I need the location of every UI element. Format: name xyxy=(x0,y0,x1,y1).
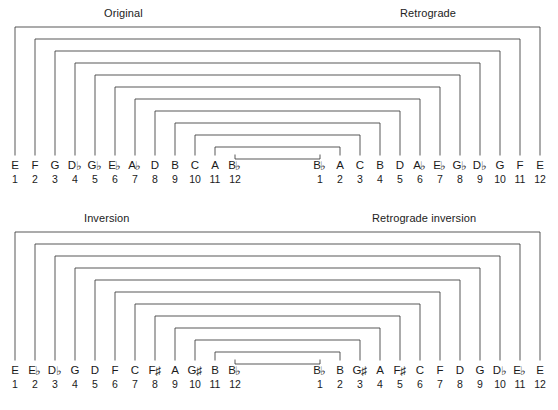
row-connector-bracket xyxy=(55,256,500,360)
note-column: G10 xyxy=(489,158,511,186)
note-name: E♭ xyxy=(429,158,451,172)
flat-accidental-icon: ♭ xyxy=(520,364,526,378)
note-name: B♭ xyxy=(309,158,331,172)
flat-accidental-icon: ♭ xyxy=(501,364,507,378)
note-column: D♭9 xyxy=(469,158,491,186)
note-column: E12 xyxy=(529,158,551,186)
row-connector-bracket xyxy=(215,147,340,155)
note-order-number: 3 xyxy=(349,377,371,391)
row-connector-bracket xyxy=(15,27,540,155)
note-name: G xyxy=(469,363,491,377)
note-labels-retrograde-inversion: B♭1B2G♯3A4F♯5C6F7D8G9D♭10E♭11E12 xyxy=(0,363,558,403)
note-column: G♯3 xyxy=(349,363,371,391)
sharp-accidental-icon: ♯ xyxy=(400,364,406,378)
note-name: G♭ xyxy=(449,158,471,172)
note-name: B♭ xyxy=(309,363,331,377)
note-order-number: 6 xyxy=(409,172,431,186)
note-column: G9 xyxy=(469,363,491,391)
row-connector-bracket xyxy=(155,316,400,360)
note-column: B♭1 xyxy=(309,158,331,186)
note-column: A2 xyxy=(329,158,351,186)
note-name: F xyxy=(509,158,531,172)
row-connector-bracket xyxy=(195,135,360,155)
note-name: D xyxy=(389,158,411,172)
row-connector-bracket xyxy=(15,232,540,360)
note-column: B4 xyxy=(369,158,391,186)
note-column: E12 xyxy=(529,363,551,391)
note-order-number: 1 xyxy=(309,377,331,391)
sharp-accidental-icon: ♯ xyxy=(361,364,367,378)
bracket-group-original xyxy=(0,0,558,160)
row-connector-bracket xyxy=(115,87,440,155)
note-order-number: 12 xyxy=(529,172,551,186)
note-column: A4 xyxy=(369,363,391,391)
row-connector-bracket xyxy=(155,111,400,155)
note-order-number: 2 xyxy=(329,172,351,186)
note-order-number: 7 xyxy=(429,377,451,391)
flat-accidental-icon: ♭ xyxy=(320,159,326,173)
note-column: D8 xyxy=(449,363,471,391)
flat-accidental-icon: ♭ xyxy=(420,159,426,173)
note-name: B xyxy=(329,363,351,377)
note-order-number: 10 xyxy=(489,172,511,186)
row-connector-bracket xyxy=(35,244,520,360)
flat-accidental-icon: ♭ xyxy=(461,159,467,173)
note-column: F7 xyxy=(429,363,451,391)
note-name: E xyxy=(529,158,551,172)
note-order-number: 11 xyxy=(509,377,531,391)
note-name: G xyxy=(489,158,511,172)
flat-accidental-icon: ♭ xyxy=(320,364,326,378)
note-column: D5 xyxy=(389,158,411,186)
row-connector-bracket xyxy=(115,292,440,360)
row-connector-bracket xyxy=(75,268,480,360)
note-column: B♭1 xyxy=(309,363,331,391)
note-column: D♭10 xyxy=(489,363,511,391)
flat-accidental-icon: ♭ xyxy=(481,159,487,173)
note-name: F xyxy=(429,363,451,377)
note-name: E xyxy=(529,363,551,377)
note-name: D♭ xyxy=(489,363,511,377)
note-column: A♭6 xyxy=(409,158,431,186)
note-name: D♭ xyxy=(469,158,491,172)
bracket-group-inversion xyxy=(0,205,558,365)
note-name: A xyxy=(329,158,351,172)
note-name: C xyxy=(409,363,431,377)
note-order-number: 7 xyxy=(429,172,451,186)
row-connector-bracket xyxy=(55,51,500,155)
note-column: C3 xyxy=(349,158,371,186)
note-order-number: 4 xyxy=(369,172,391,186)
row-connector-bracket xyxy=(75,63,480,155)
row-connector-bracket xyxy=(35,39,520,155)
note-order-number: 10 xyxy=(489,377,511,391)
note-order-number: 6 xyxy=(409,377,431,391)
panel-inversion: Inversion Retrograde inversion E1E♭2D♭3G… xyxy=(0,205,558,410)
note-order-number: 8 xyxy=(449,377,471,391)
note-name: E♭ xyxy=(509,363,531,377)
note-order-number: 2 xyxy=(329,377,351,391)
note-column: G♭8 xyxy=(449,158,471,186)
note-column: E♭7 xyxy=(429,158,451,186)
panel-original: Original Retrograde E1F2G3D♭4G♭5E♭6A♭7D8… xyxy=(0,0,558,205)
note-order-number: 9 xyxy=(469,377,491,391)
note-labels-retrograde: B♭1A2C3B4D5A♭6E♭7G♭8D♭9G10F11E12 xyxy=(0,158,558,198)
note-name: F♯ xyxy=(389,363,411,377)
note-name: G♯ xyxy=(349,363,371,377)
note-order-number: 12 xyxy=(529,377,551,391)
note-order-number: 8 xyxy=(449,172,471,186)
note-name: D xyxy=(449,363,471,377)
note-name: A xyxy=(369,363,391,377)
note-column: F11 xyxy=(509,158,531,186)
note-order-number: 11 xyxy=(509,172,531,186)
note-name: C xyxy=(349,158,371,172)
note-order-number: 9 xyxy=(469,172,491,186)
note-column: B2 xyxy=(329,363,351,391)
note-column: E♭11 xyxy=(509,363,531,391)
row-connector-bracket xyxy=(195,340,360,360)
note-column: F♯5 xyxy=(389,363,411,391)
note-order-number: 5 xyxy=(389,377,411,391)
note-order-number: 1 xyxy=(309,172,331,186)
row-connector-bracket xyxy=(175,123,380,155)
flat-accidental-icon: ♭ xyxy=(440,159,446,173)
row-connector-bracket xyxy=(215,352,340,360)
note-order-number: 5 xyxy=(389,172,411,186)
